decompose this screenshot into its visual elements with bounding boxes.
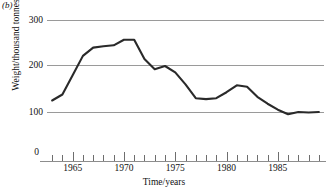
y-tick-label-100: 100	[29, 107, 43, 117]
x-tick-1967	[93, 155, 94, 161]
y-axis-title: Weight/thousand tonnes	[11, 0, 21, 115]
y-tick-label-300: 300	[29, 15, 43, 25]
x-tick-label-1985: 1985	[268, 163, 287, 173]
x-tick-1984	[268, 155, 269, 161]
x-tick-1985	[278, 152, 279, 161]
x-tick-1975	[175, 152, 176, 161]
x-tick-label-1975: 1975	[166, 163, 185, 173]
x-tick-1988	[309, 155, 310, 161]
x-tick-1964	[62, 155, 63, 161]
x-tick-1981	[237, 155, 238, 161]
x-tick-1972	[144, 155, 145, 161]
x-tick-1987	[298, 155, 299, 161]
x-axis-title: Time/years	[0, 177, 328, 187]
x-tick-1986	[288, 155, 289, 161]
x-tick-1969	[114, 155, 115, 161]
x-tick-1978	[206, 155, 207, 161]
y-tick-label-0: 0	[34, 147, 39, 157]
x-tick-1982	[247, 155, 248, 161]
x-tick-1983	[257, 155, 258, 161]
figure-panel: (b) Weight/thousand tonnes 300 200 100 0…	[0, 0, 328, 195]
x-tick-1965	[73, 152, 74, 161]
x-tick-1966	[83, 155, 84, 161]
x-tick-1979	[216, 155, 217, 161]
x-tick-1989	[319, 155, 320, 161]
x-tick-1971	[134, 155, 135, 161]
x-tick-1977	[196, 155, 197, 161]
y-tick-label-200: 200	[29, 60, 43, 70]
x-tick-1976	[186, 155, 187, 161]
x-tick-label-1970: 1970	[114, 163, 133, 173]
x-tick-1963	[52, 155, 53, 161]
x-tick-label-1965: 1965	[63, 163, 82, 173]
x-tick-1973	[155, 155, 156, 161]
x-tick-1980	[227, 152, 228, 161]
x-tick-1968	[103, 155, 104, 161]
x-tick-1970	[124, 152, 125, 161]
x-axis-line	[40, 161, 326, 162]
x-tick-1974	[165, 155, 166, 161]
data-series-line	[47, 10, 324, 162]
plot-area: 300 200 100	[47, 10, 324, 162]
x-tick-label-1980: 1980	[217, 163, 236, 173]
